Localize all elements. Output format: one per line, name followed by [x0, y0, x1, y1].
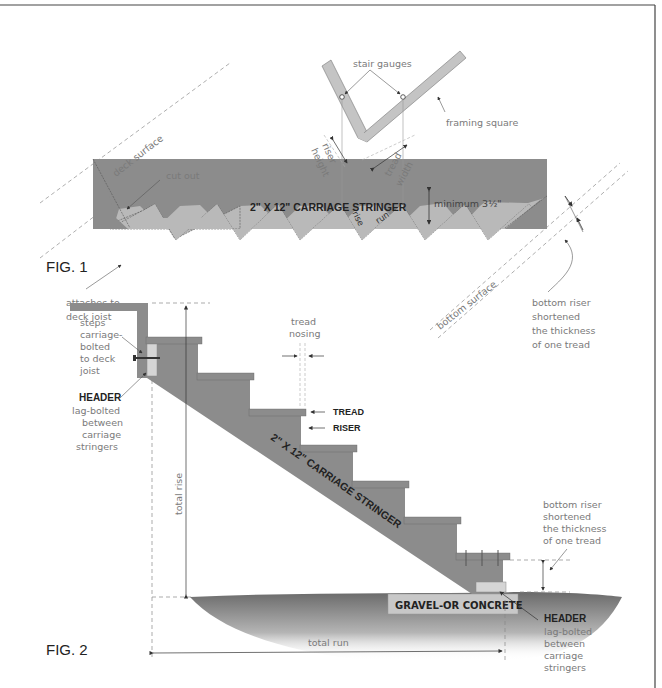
steps-label-4: to deck — [80, 353, 116, 364]
framing-square-label: framing square — [446, 117, 519, 128]
header-top-2: between — [82, 417, 123, 428]
steps-label-1: steps — [80, 317, 106, 328]
stair-gauges-label: stair gauges — [353, 58, 412, 69]
header-bottom-title: HEADER — [544, 613, 587, 624]
fig2-bottom-riser-3: the thickness — [543, 523, 607, 534]
stair-stringer-diagram: 2" X 12" CARRIAGE STRINGER minimum 3½" r… — [0, 0, 662, 688]
header-bottom-1: lag-bolted — [544, 626, 592, 637]
fig2-bottom-riser-2: shortened — [543, 511, 591, 522]
steps-label-2: carriage- — [80, 329, 122, 340]
tread-nosing-label-1: tread — [291, 316, 316, 327]
fig2-title: FIG. 2 — [46, 641, 88, 658]
stair-gauge-1 — [340, 95, 345, 100]
fig1-title: FIG. 1 — [46, 258, 88, 275]
steps-label-5: joist — [79, 365, 100, 376]
top-header-plate — [147, 344, 157, 376]
figure-2: 2" X 12" CARRIAGE STRINGER GRAVEL-OR CON… — [46, 303, 622, 673]
total-rise-label: total rise — [173, 473, 184, 515]
fig1-bottom-riser-1: bottom riser — [532, 297, 591, 308]
header-top-1: lag-bolted — [72, 405, 120, 416]
fig2-bottom-riser-4: of one tread — [543, 535, 601, 546]
total-run-label: total run — [308, 637, 349, 648]
header-top-3: carriage — [82, 429, 121, 440]
gravel-label: GRAVEL-OR CONCRETE — [395, 600, 523, 611]
fig1-bottom-riser-2: shortened — [532, 311, 580, 322]
stair-gauge-2 — [401, 95, 406, 100]
tread-label: TREAD — [333, 407, 364, 417]
riser-label: RISER — [333, 423, 361, 433]
bottom-surface-label: bottom surface — [434, 278, 498, 331]
cut-out-label: cut out — [166, 170, 200, 181]
fig2-bottom-riser-1: bottom riser — [543, 499, 602, 510]
header-bottom-4: stringers — [544, 662, 586, 673]
steps-label-3: bolted — [80, 341, 110, 352]
fig1-bottom-riser-4: of one tread — [532, 339, 590, 350]
fig1-bottom-riser-3: the thickness — [532, 325, 596, 336]
header-top-4: stringers — [76, 441, 118, 452]
header-bottom-2: between — [544, 638, 585, 649]
bottom-header-plate — [476, 582, 506, 592]
tread-nosing-label-2: nosing — [289, 328, 320, 339]
minimum-depth-label: minimum 3½" — [434, 198, 502, 209]
header-bottom-3: carriage — [544, 650, 583, 661]
header-top-title: HEADER — [79, 392, 122, 403]
